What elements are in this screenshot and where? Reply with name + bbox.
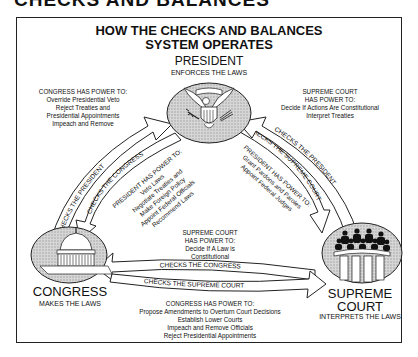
power-item: Establish Lower Courts bbox=[120, 316, 300, 324]
capitol-building-icon bbox=[31, 227, 112, 283]
title-line-2: SYSTEM OPERATES bbox=[0, 38, 418, 52]
power-item: Decide If A Law is bbox=[160, 245, 260, 253]
power-heading: CONGRESS HAS POWER TO: bbox=[120, 300, 300, 308]
power-heading: SUPREME COURT bbox=[160, 229, 260, 237]
presidential-seal-icon bbox=[167, 83, 251, 143]
president-name: PRESIDENT bbox=[159, 55, 259, 69]
power-item: Propose Amendments to Overturn Court Dec… bbox=[120, 308, 300, 316]
congress-role: MAKES THE LAWS bbox=[25, 300, 115, 308]
congress-powers-over-court: CONGRESS HAS POWER TO: Propose Amendment… bbox=[120, 300, 300, 340]
power-item: Interpret Treaties bbox=[270, 112, 390, 120]
power-item: Impeach and Remove bbox=[28, 120, 138, 128]
power-heading: CONGRESS HAS POWER TO: bbox=[28, 88, 138, 96]
power-item: Impeach and Remove Officials bbox=[120, 324, 300, 332]
congress-powers-over-president: CONGRESS HAS POWER TO: Override Presiden… bbox=[28, 88, 138, 128]
court-powers-over-president: SUPREME COURT HAS POWER TO: Decide If Ac… bbox=[270, 88, 390, 120]
court-role: INTERPRETS THE LAWS bbox=[310, 313, 410, 321]
power-heading: SUPREME COURT bbox=[270, 88, 390, 96]
power-item: Decide If Actions Are Constitutional bbox=[270, 104, 390, 112]
power-heading: HAS POWER TO: bbox=[160, 237, 260, 245]
president-role: ENFORCES THE LAWS bbox=[159, 69, 259, 77]
president-label: PRESIDENT ENFORCES THE LAWS bbox=[159, 55, 259, 77]
power-item: Override Presidential Veto bbox=[28, 96, 138, 104]
court-powers-over-congress: SUPREME COURT HAS POWER TO: Decide If A … bbox=[160, 229, 260, 261]
power-item: Presidential Appointments bbox=[28, 112, 138, 120]
title-line-1: HOW THE CHECKS AND BALANCES bbox=[0, 24, 418, 38]
supreme-court-label: SUPREME COURT INTERPRETS THE LAWS bbox=[310, 287, 410, 321]
court-name-2: COURT bbox=[310, 300, 410, 313]
congress-label: CONGRESS MAKES THE LAWS bbox=[25, 285, 115, 308]
power-item: Reject Treaties and bbox=[28, 104, 138, 112]
power-item: Constitutional bbox=[160, 253, 260, 261]
power-item: Reject Presidential Appointments bbox=[120, 332, 300, 340]
congress-name: CONGRESS bbox=[25, 285, 115, 300]
power-heading: HAS POWER TO: bbox=[270, 96, 390, 104]
diagram-title: HOW THE CHECKS AND BALANCES SYSTEM OPERA… bbox=[0, 24, 418, 52]
supreme-court-justices-icon bbox=[322, 223, 402, 283]
